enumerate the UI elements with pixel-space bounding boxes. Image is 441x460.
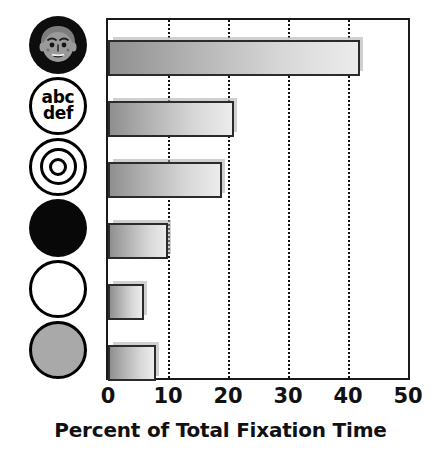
x-axis-tick-labels: 01020304050: [0, 384, 441, 414]
bar-white-circle: [108, 284, 144, 320]
x-tick-label-30: 30: [273, 384, 302, 408]
category-icon-cell-text: abc def: [25, 75, 91, 136]
x-tick-label-40: 40: [333, 384, 362, 408]
bar-text-abc-def: [108, 101, 234, 137]
category-icon-cell-white-circle: [25, 258, 91, 319]
bullseye-ring-middle: [40, 148, 77, 185]
x-tick-label-0: 0: [101, 384, 116, 408]
gray-circle-icon: [29, 321, 87, 379]
x-axis-title: Percent of Total Fixation Time: [0, 418, 441, 442]
bar-gray-circle: [108, 345, 156, 381]
black-circle-icon: [29, 199, 87, 257]
x-tick-label-20: 20: [213, 384, 242, 408]
category-icon-cell-bullseye: [25, 136, 91, 197]
category-icon-cell-face: [25, 14, 91, 75]
bullseye-ring-inner: [49, 158, 67, 176]
x-tick-label-50: 50: [393, 384, 422, 408]
plot-area: [106, 18, 410, 380]
bar-black-circle: [108, 223, 168, 259]
category-icon-cell-gray-circle: [25, 319, 91, 380]
x-tick-label-10: 10: [153, 384, 182, 408]
text-abc-def-icon: abc def: [29, 77, 87, 135]
white-circle-icon: [29, 260, 87, 318]
bullseye-icon: [29, 138, 87, 196]
category-icon-column: abc def: [25, 14, 97, 380]
fixation-time-bar-chart: abc def 01020304050 Percent of Total Fix…: [0, 0, 441, 460]
text-icon-line2: def: [43, 106, 73, 122]
bar-face: [108, 40, 360, 76]
face-icon: [29, 16, 87, 74]
bar-bullseye: [108, 162, 222, 198]
category-icon-cell-black-circle: [25, 197, 91, 258]
